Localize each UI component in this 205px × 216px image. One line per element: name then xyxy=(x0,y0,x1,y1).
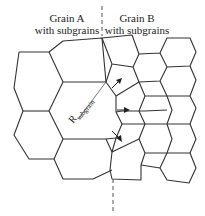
subgrain-network-diagram xyxy=(0,0,205,216)
grain-a-subgrains xyxy=(14,38,112,179)
arrow-right-icon xyxy=(124,107,130,113)
grain-b-subgrains xyxy=(102,35,196,183)
growth-arrows xyxy=(112,78,130,142)
